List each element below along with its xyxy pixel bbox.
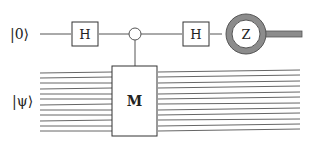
hadamard-gate-1: H <box>72 22 98 46</box>
register-label: |ψ⟩ <box>12 93 33 110</box>
control-node-icon <box>129 28 141 40</box>
measurement-label: Z <box>241 27 250 42</box>
register-wires <box>40 70 300 131</box>
ancilla-label: |0⟩ <box>10 26 29 43</box>
hadamard-gate-2: H <box>183 22 209 46</box>
hadamard-gate-1-label: H <box>79 27 90 42</box>
measurement-meter-icon: Z <box>226 14 302 54</box>
controlled-unitary-gate: M <box>112 66 157 136</box>
hadamard-gate-2-label: H <box>190 27 201 42</box>
quantum-circuit-diagram: |0⟩ H H Z |ψ⟩ M <box>0 0 315 144</box>
controlled-unitary-label: M <box>127 93 143 109</box>
